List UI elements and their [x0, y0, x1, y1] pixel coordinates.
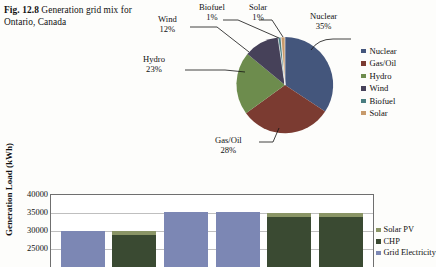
y-tick-35000: 35000: [27, 208, 48, 217]
pie-legend-label-wind: Wind: [370, 82, 389, 94]
pie-legend-swatch-solar: [361, 111, 366, 116]
leader-line-wind: [190, 27, 249, 52]
figure-caption: Fig. 12.8 Generation grid mix for Ontari…: [4, 4, 154, 29]
bar-legend-label-grid-electricity: Grid Electricity: [384, 247, 436, 259]
pie-label-solar-name: Solar: [249, 2, 267, 12]
bar-chart-plot-area: [50, 194, 374, 267]
pie-legend-item-wind: Wind: [361, 82, 397, 94]
y-tick-40000: 40000: [27, 190, 48, 199]
bar-group-3: [164, 212, 208, 267]
pie-label-hydro-name: Hydro: [143, 54, 165, 64]
pie-label-nuclear-name: Nuclear: [310, 11, 337, 21]
pie-label-hydro: Hydro 23%: [143, 55, 165, 75]
bar-chart-legend: Solar PV CHP Grid Electricity: [376, 224, 436, 259]
bar-segment-grid-electricity: [216, 212, 260, 267]
pie-legend-swatch-hydro: [361, 74, 366, 79]
bar-segment-chp: [112, 235, 156, 267]
pie-label-hydro-pct: 23%: [143, 65, 165, 75]
pie-label-solar-pct: 1%: [249, 13, 267, 23]
bar-group-5: [267, 213, 311, 267]
bar-legend-label-solar-pv: Solar PV: [384, 224, 414, 236]
pie-legend-label-nuclear: Nuclear: [370, 45, 397, 57]
pie-legend-label-hydro: Hydro: [370, 70, 392, 82]
bar-legend-item-solar-pv: Solar PV: [376, 224, 436, 236]
pie-legend-item-nuclear: Nuclear: [361, 45, 397, 57]
pie-legend-item-hydro: Hydro: [361, 70, 397, 82]
bar-segment-grid-electricity: [61, 231, 105, 267]
bar-chart: Generation Load (kWh) 40000 35000 30000 …: [0, 182, 432, 266]
pie-legend-item-biofuel: Biofuel: [361, 95, 397, 107]
leader-line-nuclear: [311, 39, 351, 50]
pie-chart: Biofuel 1% Solar 1% Wind 12% Hydro 23% G…: [155, 0, 432, 175]
pie-label-nuclear-pct: 35%: [310, 22, 337, 32]
bar-legend-item-grid-electricity: Grid Electricity: [376, 247, 436, 259]
pie-label-solar: Solar 1%: [249, 3, 267, 23]
bar-group-4: [216, 212, 260, 267]
bar-chart-y-ticks: 40000 35000 30000 25000: [8, 182, 48, 266]
bar-legend-swatch-chp: [376, 239, 381, 244]
pie-legend-item-solar: Solar: [361, 107, 397, 119]
pie-legend-label-biofuel: Biofuel: [370, 95, 396, 107]
pie-label-wind-name: Wind: [158, 14, 177, 24]
pie-legend-label-solar: Solar: [370, 107, 388, 119]
bar-group-1: [61, 231, 105, 267]
leader-line-biofuel: [223, 20, 279, 38]
bar-chart-bars: [51, 195, 373, 267]
bar-segment-grid-electricity: [164, 212, 208, 267]
pie-legend-label-gas-oil: Gas/Oil: [370, 57, 397, 69]
bar-legend-label-chp: CHP: [384, 236, 400, 248]
bar-group-2: [112, 231, 156, 267]
y-tick-30000: 30000: [27, 226, 48, 235]
pie-label-gas-oil-name: Gas/Oil: [215, 135, 242, 145]
bar-group-6: [319, 213, 363, 267]
pie-legend-swatch-wind: [361, 86, 366, 91]
pie-legend-item-gas-oil: Gas/Oil: [361, 57, 397, 69]
pie-label-biofuel-pct: 1%: [199, 13, 225, 23]
pie-label-wind: Wind 12%: [158, 15, 177, 35]
pie-label-wind-pct: 12%: [158, 25, 177, 35]
pie-label-biofuel-name: Biofuel: [199, 2, 225, 12]
pie-label-biofuel: Biofuel 1%: [199, 3, 225, 23]
y-tick-25000: 25000: [27, 244, 48, 253]
bar-legend-swatch-grid-electricity: [376, 251, 381, 256]
pie-legend-swatch-gas-oil: [361, 61, 366, 66]
leader-line-hydro: [185, 70, 245, 72]
bar-segment-chp: [319, 217, 363, 267]
bar-legend-item-chp: CHP: [376, 236, 436, 248]
pie-legend: Nuclear Gas/Oil Hydro Wind Biofuel Solar: [361, 45, 397, 119]
pie-legend-swatch-biofuel: [361, 99, 366, 104]
pie-label-gas-oil: Gas/Oil 28%: [215, 136, 242, 156]
figure-number: Fig. 12.8: [4, 5, 39, 15]
bar-segment-chp: [267, 217, 311, 267]
pie-label-gas-oil-pct: 28%: [215, 146, 242, 156]
bar-legend-swatch-solar-pv: [376, 228, 381, 233]
pie-legend-swatch-nuclear: [361, 49, 366, 54]
pie-label-nuclear: Nuclear 35%: [310, 12, 337, 32]
